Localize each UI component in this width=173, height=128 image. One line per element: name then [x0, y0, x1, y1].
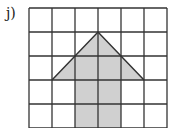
grid-lines [29, 8, 167, 128]
grid-figure [0, 0, 173, 128]
